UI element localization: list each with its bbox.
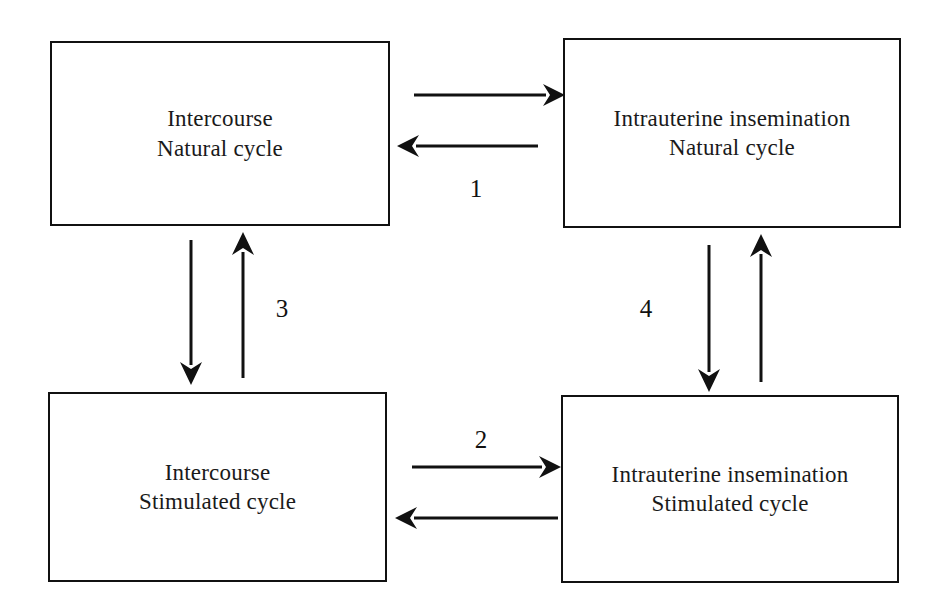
- comparison-label-3: 3: [268, 296, 296, 321]
- arrow-intercourse-stimulated-to-iui-stimulated: [396, 452, 566, 482]
- box-label-line1: Intercourse: [165, 458, 271, 487]
- diagram-canvas: Intercourse Natural cycle Intrauterine i…: [0, 0, 941, 610]
- arrow-iui-stimulated-to-intercourse-stimulated: [392, 503, 562, 533]
- arrow-iui-natural-to-iui-stimulated: [694, 245, 724, 393]
- comparison-label-2: 2: [467, 427, 495, 452]
- box-intercourse-stimulated: Intercourse Stimulated cycle: [48, 392, 387, 582]
- box-iui-stimulated: Intrauterine insemination Stimulated cyc…: [561, 395, 899, 583]
- box-intercourse-natural: Intercourse Natural cycle: [50, 41, 390, 226]
- box-label-line2: Stimulated cycle: [139, 487, 296, 516]
- box-label-line2: Natural cycle: [669, 133, 795, 162]
- arrow-intercourse-natural-to-iui-natural: [398, 80, 568, 110]
- box-label-line2: Stimulated cycle: [651, 489, 808, 518]
- comparison-label-1: 1: [462, 176, 490, 201]
- box-label-line1: Intrauterine insemination: [614, 104, 851, 133]
- comparison-label-4: 4: [632, 296, 660, 321]
- arrow-iui-stimulated-to-iui-natural: [746, 232, 776, 384]
- arrow-iui-natural-to-intercourse-natural: [394, 131, 544, 161]
- arrow-intercourse-natural-to-intercourse-stimulated: [176, 240, 206, 386]
- box-label-line1: Intrauterine insemination: [612, 460, 849, 489]
- arrow-intercourse-stimulated-to-intercourse-natural: [228, 230, 258, 380]
- box-label-line1: Intercourse: [167, 104, 273, 133]
- box-iui-natural: Intrauterine insemination Natural cycle: [563, 38, 901, 228]
- box-label-line2: Natural cycle: [157, 134, 283, 163]
